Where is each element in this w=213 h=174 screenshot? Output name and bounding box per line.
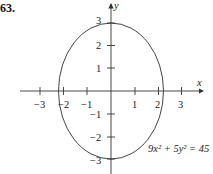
equation-label: 9x² + 5y² = 45 xyxy=(148,143,209,154)
y-tick-label: −2 xyxy=(90,132,101,143)
y-tick-label: 3 xyxy=(96,15,101,26)
y-tick-label: 2 xyxy=(96,40,101,51)
y-tick-label: −1 xyxy=(90,109,101,120)
y-axis-label: y xyxy=(113,0,119,11)
ellipse-plot: −3 −2 −1 1 2 3 3 2 1 −1 −2 −3 x y 9x² + … xyxy=(0,0,213,174)
x-axis-label: x xyxy=(196,77,202,88)
x-tick-label: −3 xyxy=(34,99,45,110)
y-tick-label: 1 xyxy=(96,63,101,74)
y-tick-label: −3 xyxy=(90,155,101,166)
x-tick-label: 1 xyxy=(132,99,137,110)
x-tick-label: 2 xyxy=(155,99,160,110)
x-tick-label: 3 xyxy=(178,99,183,110)
x-tick-label: −2 xyxy=(58,99,69,110)
